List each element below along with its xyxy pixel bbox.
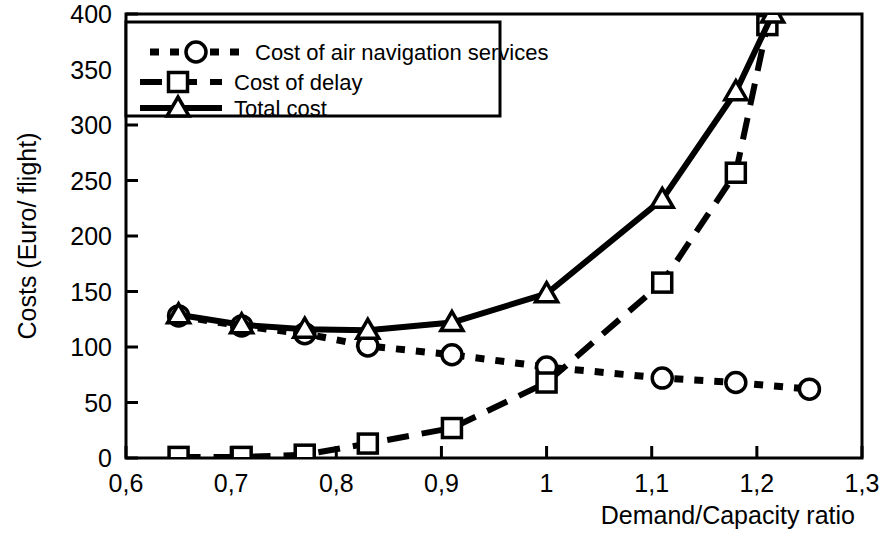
data-point-circle bbox=[726, 373, 746, 393]
data-point-circle bbox=[799, 379, 819, 399]
y-axis-tick-label: 150 bbox=[70, 278, 112, 306]
y-axis-tick-label: 250 bbox=[70, 167, 112, 195]
y-axis-tick-label: 400 bbox=[70, 0, 112, 28]
y-axis-tick-label: 100 bbox=[70, 333, 112, 361]
x-axis-title: Demand/Capacity ratio bbox=[601, 501, 855, 529]
data-point-square bbox=[653, 273, 672, 292]
y-axis-tick-label: 300 bbox=[70, 111, 112, 139]
data-point-circle bbox=[442, 345, 462, 365]
legend-item-2[interactable]: Cost of delay bbox=[140, 70, 362, 95]
x-axis-tick-label: 1,3 bbox=[845, 469, 880, 497]
data-point-square bbox=[232, 447, 251, 466]
y-axis-tick-label: 350 bbox=[70, 56, 112, 84]
data-point-square bbox=[442, 419, 461, 438]
legend-circle-marker-icon bbox=[186, 42, 206, 62]
data-point-square bbox=[358, 434, 377, 453]
data-point-square bbox=[169, 447, 188, 466]
data-point-circle bbox=[652, 368, 672, 388]
legend-square-marker-icon bbox=[169, 73, 188, 92]
x-axis-tick-label: 1,2 bbox=[739, 469, 774, 497]
data-point-square bbox=[295, 445, 314, 464]
y-axis-tick-label: 200 bbox=[70, 222, 112, 250]
x-axis-tick-label: 1 bbox=[540, 469, 554, 497]
legend-item-label: Total cost bbox=[234, 96, 327, 121]
chart-legend: Cost of air navigation servicesCost of d… bbox=[126, 22, 548, 121]
y-axis-tick-label: 50 bbox=[84, 389, 112, 417]
x-axis-tick-label: 1,1 bbox=[634, 469, 669, 497]
y-axis-title: Costs (Euro/ flight) bbox=[13, 132, 41, 339]
x-axis-tick-label: 0,8 bbox=[319, 469, 354, 497]
chart-figure: 050100150200250300350400 0,60,70,80,911,… bbox=[0, 0, 896, 551]
legend-item-label: Cost of air navigation services bbox=[255, 40, 548, 65]
x-axis-tick-label: 0,6 bbox=[109, 469, 144, 497]
cost-vs-demand-capacity-line-chart: 050100150200250300350400 0,60,70,80,911,… bbox=[0, 0, 896, 551]
x-axis-tick-label: 0,7 bbox=[214, 469, 249, 497]
data-point-square bbox=[537, 373, 556, 392]
y-axis-tick-label: 0 bbox=[98, 444, 112, 472]
data-point-square bbox=[726, 163, 745, 182]
legend-item-label: Cost of delay bbox=[234, 70, 362, 95]
x-axis-tick-label: 0,9 bbox=[424, 469, 459, 497]
